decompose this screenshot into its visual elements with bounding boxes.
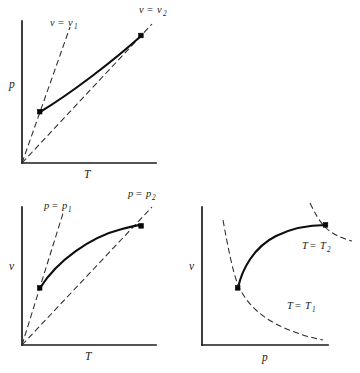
state-1-marker-vp <box>235 286 240 291</box>
annotation-p1-lead: p <box>43 200 49 211</box>
annotation-T2-var: T <box>320 240 327 251</box>
annotation-T2: T = T 2 <box>302 240 331 254</box>
isobar-p1-line <box>22 210 64 345</box>
annotation-T1-lead: T <box>287 300 294 311</box>
y-axis-label-p: p <box>8 78 15 91</box>
x-axis-label-T: T <box>85 350 93 362</box>
annotation-p2-equals: = <box>136 188 142 199</box>
annotation-p1-equals: = <box>52 200 58 211</box>
annotation-v1: v = v 1 <box>50 17 78 31</box>
state-2-marker-vp <box>323 223 328 228</box>
isobar-p2-line <box>22 207 152 345</box>
state-2-marker-vt <box>139 224 144 229</box>
chart-v-vs-p: v p T = T 2 T = T 1 <box>180 185 360 373</box>
annotation-p2: p = p 2 <box>127 188 156 202</box>
annotation-v1-lead: v <box>50 17 55 28</box>
annotation-T2-equals: = <box>310 240 316 251</box>
annotation-T1-subscript: 1 <box>312 306 316 314</box>
annotation-T2-subscript: 2 <box>327 246 331 254</box>
annotation-v1-subscript: 1 <box>74 23 78 31</box>
annotation-T1-var: T <box>305 300 312 311</box>
annotation-v2-subscript: 2 <box>163 10 167 18</box>
annotation-v1-var: v <box>68 17 73 28</box>
y-axis-label-v: v <box>9 260 15 272</box>
state-1-marker-pt <box>37 109 42 114</box>
annotation-T2-lead: T <box>302 240 309 251</box>
annotation-p1-var: p <box>61 200 67 211</box>
annotation-p2-subscript: 2 <box>152 194 156 202</box>
thermodynamic-figure: p T v = v 1 v = v 2 v <box>0 0 360 373</box>
chart-v-vs-T: v T p = p 1 p = p 2 <box>0 185 185 373</box>
y-axis-label-v: v <box>189 260 195 272</box>
state-1-marker-vt <box>37 286 42 291</box>
annotation-p1: p = p 1 <box>43 200 72 214</box>
x-axis-label-p: p <box>261 351 268 364</box>
annotation-T1: T = T 1 <box>287 300 316 314</box>
process-path-vp <box>238 225 326 288</box>
state-2-marker-pt <box>139 33 144 38</box>
annotation-v2: v = v 2 <box>139 4 167 18</box>
process-path-pt <box>40 36 141 112</box>
isotherm-T2-curve <box>310 203 352 241</box>
annotation-v2-var: v <box>157 4 162 15</box>
annotation-p2-var: p <box>145 188 151 199</box>
annotation-p1-subscript: 1 <box>68 206 72 214</box>
isochore-v1-line <box>22 27 70 163</box>
x-axis-label-T: T <box>84 168 92 180</box>
annotation-v2-equals: = <box>147 4 153 15</box>
annotation-v2-lead: v <box>139 4 144 15</box>
annotation-v1-equals: = <box>58 17 64 28</box>
annotation-T1-equals: = <box>295 300 301 311</box>
annotation-p2-lead: p <box>127 188 133 199</box>
chart-p-vs-T: p T v = v 1 v = v 2 <box>0 0 185 185</box>
